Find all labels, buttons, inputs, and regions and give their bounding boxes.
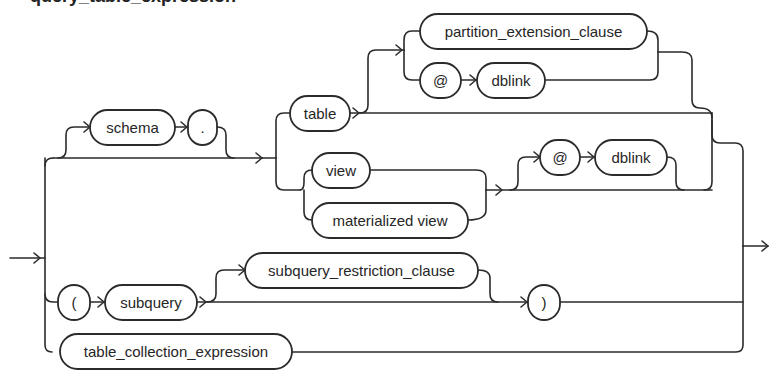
svg-text:(: (	[72, 294, 77, 311]
railroad-diagram: schema . table partition_extension_claus…	[0, 0, 773, 379]
node-partition-extension-clause: partition_extension_clause	[420, 14, 647, 49]
svg-text:.: .	[200, 119, 204, 136]
svg-text:): )	[542, 294, 547, 311]
node-at-1: @	[420, 63, 461, 98]
node-materialized-view: materialized view	[312, 203, 468, 238]
svg-text:table_collection_expression: table_collection_expression	[84, 343, 268, 360]
svg-text:@: @	[433, 72, 448, 89]
svg-text:dblink: dblink	[611, 149, 651, 166]
svg-text:view: view	[326, 162, 356, 179]
node-open-paren: (	[58, 285, 90, 320]
node-view: view	[312, 153, 370, 188]
node-dblink-2: dblink	[595, 140, 667, 175]
svg-text:subquery: subquery	[120, 294, 182, 311]
node-subquery: subquery	[105, 285, 197, 320]
svg-text:schema: schema	[106, 119, 159, 136]
node-at-2: @	[540, 140, 580, 175]
svg-text:@: @	[552, 149, 567, 166]
node-dblink-1: dblink	[477, 63, 545, 98]
node-close-paren: )	[528, 285, 560, 320]
node-table-collection-expression: table_collection_expression	[60, 334, 292, 369]
svg-text:partition_extension_clause: partition_extension_clause	[445, 23, 623, 40]
node-schema: schema	[90, 110, 175, 145]
svg-text:subquery_restriction_clause: subquery_restriction_clause	[268, 262, 455, 279]
node-table: table	[290, 96, 350, 131]
svg-text:materialized view: materialized view	[332, 212, 447, 229]
node-subquery-restriction-clause: subquery_restriction_clause	[245, 253, 478, 288]
svg-text:table: table	[304, 105, 337, 122]
svg-text:dblink: dblink	[491, 72, 531, 89]
node-dot: .	[188, 110, 217, 145]
